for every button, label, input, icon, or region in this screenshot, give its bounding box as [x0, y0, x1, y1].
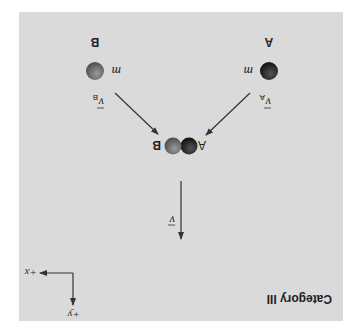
ball-a-mass-label: m	[244, 64, 253, 79]
velocity-a-label: v A	[259, 93, 271, 109]
combined-ball-b	[165, 138, 182, 155]
x-axis-label: +x	[25, 267, 37, 279]
combined-ball-a	[181, 138, 198, 155]
y-axis-label: +y	[68, 309, 80, 321]
ball-b-group: B m v B	[86, 35, 158, 134]
velocity-b-label: v B	[93, 93, 104, 109]
collision-diagram: A m v A B m v B A	[0, 0, 361, 331]
svg-text:B: B	[93, 93, 98, 102]
final-velocity: v	[168, 181, 181, 239]
ball-a-group: A m v A	[206, 35, 278, 135]
ball-a-label: A	[264, 35, 273, 49]
ball-b	[86, 62, 104, 80]
velocity-b-arrow	[115, 93, 158, 134]
figure-title: Category III	[267, 292, 332, 306]
ball-b-label: B	[90, 35, 99, 49]
combined-label-b: B	[152, 138, 161, 152]
svg-text:A: A	[259, 93, 265, 102]
velocity-a-arrow	[206, 93, 250, 135]
ball-a	[260, 62, 278, 80]
combined-balls: A B	[152, 138, 206, 155]
ball-b-mass-label: m	[112, 64, 121, 79]
axes-indicator: +x +y	[25, 267, 80, 321]
combined-label-a: A	[198, 138, 206, 152]
